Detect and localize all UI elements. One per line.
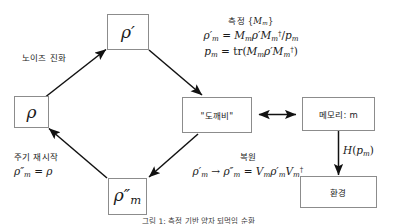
node-memory-label: 메모리: m [319,108,358,120]
node-demon[interactable]: "도깨비" [182,97,252,133]
label-recovery: 복원 ρ′m → ρ″m = Vmρ′mVm† [168,150,328,179]
cycle-restart-equation: ρ″m = ρ [14,164,58,179]
recovery-equation: ρ′m → ρ″m = Vmρ′mVm† [168,164,328,179]
node-rho-double-prime-m[interactable]: ρ″m [108,178,147,215]
node-environment-label: 환경 [330,186,346,198]
label-entropy-cost: H(pm) [343,144,374,158]
node-rho-double-prime-m-label: ρ″m [114,187,141,206]
label-cycle-restart: 주기 재시작 ρ″m = ρ [14,150,58,179]
measurement-equation-2: pm = tr(Mmρ′Mm†) [176,44,326,59]
recovery-title: 복원 [168,150,328,162]
cycle-restart-title: 주기 재시작 [14,150,58,162]
figure-caption: 그림 1: 측정 기반 양자 되먹임 순환 [0,215,397,224]
node-rho-prime-label: ρ′ [121,24,135,41]
node-rho[interactable]: ρ [14,96,49,128]
node-rho-prime[interactable]: ρ′ [107,14,149,50]
node-memory[interactable]: 메모리: m [302,97,375,131]
label-noise-evolution: 노이즈 진화 [22,51,66,63]
node-environment[interactable]: 환경 [300,176,377,208]
node-rho-label: ρ [27,104,37,121]
measurement-equation-1: ρ′m = Mmρ′Mm†/pm [176,28,326,43]
node-demon-label: "도깨비" [201,109,234,121]
diagram-canvas: ρ ρ′ ρ″m "도깨비" 메모리: m 환경 노이즈 진화 주기 재시작 ρ… [0,0,397,224]
measurement-title: 측정 {Mm} [176,14,326,26]
label-measurement: 측정 {Mm} ρ′m = Mmρ′Mm†/pm pm = tr(Mmρ′Mm†… [176,14,326,59]
